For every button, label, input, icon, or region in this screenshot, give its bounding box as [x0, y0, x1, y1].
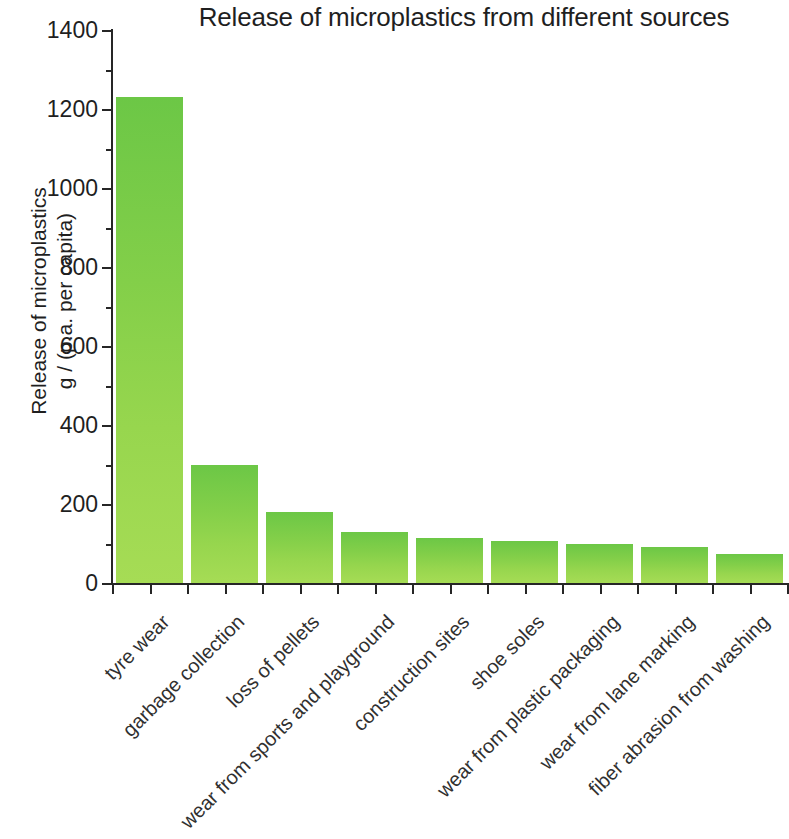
- x-axis-tick: [637, 583, 639, 594]
- x-axis-category-label: wear from lane marking: [259, 610, 700, 839]
- x-axis-minor-tick: [300, 583, 302, 594]
- x-axis-category-label: construction sites: [34, 610, 475, 839]
- y-axis-tick: [102, 267, 112, 269]
- bar[interactable]: [116, 97, 182, 583]
- bar[interactable]: [341, 532, 407, 583]
- bar[interactable]: [491, 541, 557, 583]
- x-axis-minor-tick: [450, 583, 452, 594]
- bar[interactable]: [716, 554, 782, 583]
- x-axis-category-label: fiber abrasion from washing: [334, 610, 775, 839]
- bar[interactable]: [566, 544, 632, 583]
- bar[interactable]: [416, 538, 482, 583]
- y-axis-tick-label: 0: [85, 570, 98, 597]
- y-axis-tick-label: 200: [60, 491, 98, 518]
- plot-area: 0200400600800100012001400: [112, 30, 787, 583]
- y-axis-tick-label: 1200: [47, 96, 98, 123]
- x-axis-tick: [562, 583, 564, 594]
- x-axis-category-label: shoe soles: [109, 610, 550, 839]
- x-axis-minor-tick: [750, 583, 752, 594]
- bar[interactable]: [266, 512, 332, 583]
- bar[interactable]: [191, 465, 257, 584]
- x-axis-tick: [712, 583, 714, 594]
- y-axis-tick: [102, 188, 112, 190]
- y-axis-tick: [102, 109, 112, 111]
- y-axis-minor-tick: [106, 307, 112, 309]
- y-axis-tick-label: 800: [60, 254, 98, 281]
- y-axis-tick: [102, 30, 112, 32]
- x-axis-minor-tick: [375, 583, 377, 594]
- y-axis-minor-tick: [106, 70, 112, 72]
- x-axis-minor-tick: [525, 583, 527, 594]
- x-axis-minor-tick: [150, 583, 152, 594]
- x-axis-tick: [337, 583, 339, 594]
- y-axis-tick-label: 400: [60, 412, 98, 439]
- x-axis-tick: [487, 583, 489, 594]
- x-axis-tick: [112, 583, 114, 594]
- y-axis-minor-tick: [106, 228, 112, 230]
- x-axis-category-label: wear from plastic packaging: [184, 610, 625, 839]
- y-axis-minor-tick: [106, 544, 112, 546]
- y-axis-minor-tick: [106, 149, 112, 151]
- x-axis-minor-tick: [225, 583, 227, 594]
- y-axis-tick: [102, 583, 112, 585]
- y-axis-minor-tick: [106, 386, 112, 388]
- x-axis-tick: [262, 583, 264, 594]
- y-axis-tick: [102, 425, 112, 427]
- y-axis-tick-label: 1000: [47, 175, 98, 202]
- x-axis-minor-tick: [675, 583, 677, 594]
- y-axis-tick-label: 1400: [47, 17, 98, 44]
- bar[interactable]: [641, 547, 707, 583]
- y-axis-tick: [102, 346, 112, 348]
- x-axis-tick: [412, 583, 414, 594]
- x-axis-tick: [187, 583, 189, 594]
- y-axis-tick-label: 600: [60, 333, 98, 360]
- chart-title: Release of microplastics from different …: [140, 2, 788, 33]
- y-axis-minor-tick: [106, 465, 112, 467]
- y-axis-tick: [102, 504, 112, 506]
- x-axis-minor-tick: [600, 583, 602, 594]
